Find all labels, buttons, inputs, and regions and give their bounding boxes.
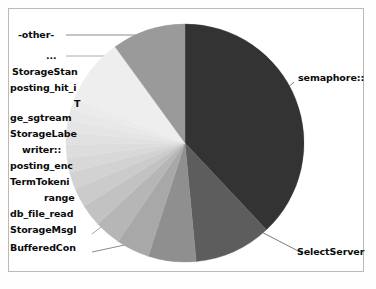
pie-label-semaphore: semaphore::: [298, 73, 364, 83]
pie-label-ellipsis: ...: [46, 51, 57, 61]
pie-label-other: -other-: [18, 30, 54, 40]
pie-label-range: range: [44, 193, 75, 203]
pie-slice-group: [66, 24, 304, 262]
pie-label-t: T: [74, 99, 80, 109]
pie-label-gesgtream: ge_sgtream: [10, 113, 71, 123]
pie-label-postinghiti: posting_hit_i: [10, 83, 76, 93]
pie-label-storagestan: StorageStan: [12, 67, 78, 77]
pie-label-selectserver: SelectServer: [297, 247, 364, 257]
pie-label-storagelabe: StorageLabe: [10, 129, 77, 139]
pie-label-storagemsgl: StorageMsgl: [10, 225, 76, 235]
pie-label-termtokeni: TermTokeni: [10, 177, 70, 187]
pie-chart-figure: -other- ... StorageStan posting_hit_i T …: [0, 0, 376, 289]
pie-label-bufferedcon: BufferedCon: [10, 243, 76, 253]
pie-label-dbfileread: db_file_read: [10, 209, 73, 219]
pie-label-writer: writer::: [22, 145, 61, 155]
pie-label-postingenc: posting_enc: [10, 161, 73, 171]
